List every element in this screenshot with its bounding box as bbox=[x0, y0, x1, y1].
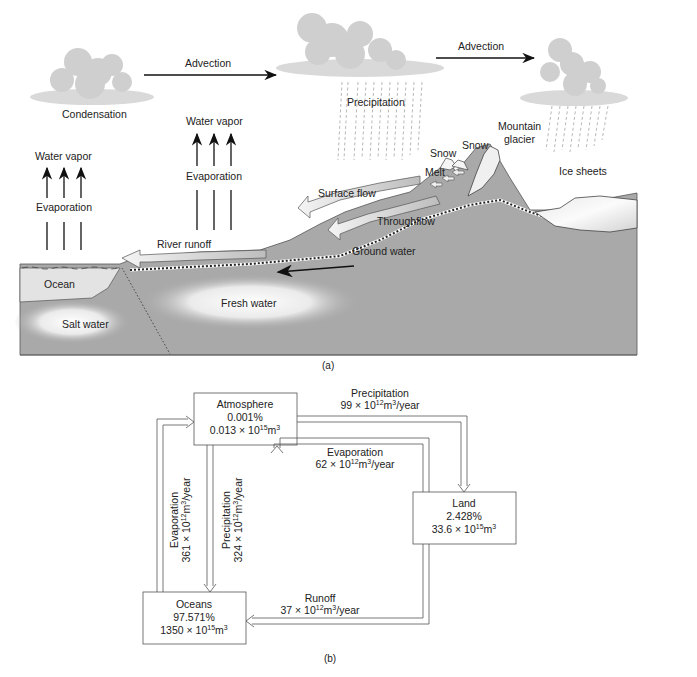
label-water-vapor-mid: Water vapor bbox=[186, 115, 243, 127]
precip-ocean-value: 324 × 1012m3/year bbox=[232, 477, 244, 562]
runoff-value: 37 × 1012m3/year bbox=[280, 604, 360, 616]
evap-ocean-name: Evaporation bbox=[168, 492, 180, 548]
label-ground-water: Ground water bbox=[352, 245, 416, 257]
runoff-name: Runoff bbox=[305, 592, 336, 604]
atmosphere-name: Atmosphere bbox=[217, 398, 274, 410]
precip-land-name: Precipitation bbox=[351, 387, 409, 399]
oceans-name: Oceans bbox=[176, 598, 212, 610]
evap-land-value: 62 × 1012m3/year bbox=[315, 458, 395, 470]
caption-b: (b) bbox=[324, 653, 336, 664]
label-ice-sheets: Ice sheets bbox=[559, 165, 607, 177]
label-precipitation: Precipitation bbox=[347, 96, 405, 108]
cloud-condensation-icon bbox=[30, 48, 154, 105]
oceans-percent: 97.571% bbox=[173, 611, 214, 623]
label-melt: Melt bbox=[425, 166, 445, 178]
evap-land-name: Evaporation bbox=[327, 446, 383, 458]
evaporation-arrows-middle bbox=[197, 134, 231, 230]
oceans-volume: 1350 × 1015m3 bbox=[160, 624, 228, 636]
label-river-runoff: River runoff bbox=[157, 238, 211, 250]
label-glacier: glacier bbox=[504, 133, 535, 145]
label-snow-2: Snow bbox=[462, 139, 489, 151]
label-evaporation-left: Evaporation bbox=[36, 201, 92, 213]
label-salt-water: Salt water bbox=[62, 318, 109, 330]
land-volume: 33.6 × 1015m3 bbox=[432, 523, 497, 535]
land-name: Land bbox=[452, 497, 476, 509]
land-percent: 2.428% bbox=[446, 510, 482, 522]
evap-ocean-value: 361 × 1012m3/year bbox=[180, 477, 192, 562]
label-condensation: Condensation bbox=[62, 108, 127, 120]
atmosphere-volume: 0.013 × 1015m3 bbox=[210, 424, 280, 436]
precip-ocean-name: Precipitation bbox=[220, 491, 232, 549]
rain-precipitation-icon bbox=[338, 82, 422, 160]
precip-land-value: 99 × 1012m3/year bbox=[340, 399, 420, 411]
cloud-precipitation-icon bbox=[276, 13, 444, 77]
label-throughflow: Throughflow bbox=[377, 215, 435, 227]
label-mountain: Mountain bbox=[498, 120, 541, 132]
atmosphere-percent: 0.001% bbox=[227, 411, 263, 423]
label-ocean: Ocean bbox=[44, 278, 75, 290]
panel-a-hydrologic-cycle: Condensation Advection Advection Precipi… bbox=[14, 13, 637, 371]
label-advection-1: Advection bbox=[185, 57, 231, 69]
label-snow-1: Snow bbox=[430, 147, 457, 159]
label-fresh-water: Fresh water bbox=[221, 297, 277, 309]
label-water-vapor-left: Water vapor bbox=[35, 150, 92, 162]
label-evaporation-mid: Evaporation bbox=[186, 170, 242, 182]
label-surface-flow: Surface flow bbox=[318, 187, 376, 199]
water-cycle-figure: Condensation Advection Advection Precipi… bbox=[0, 0, 697, 677]
rain-mountain-icon bbox=[546, 106, 608, 152]
caption-a: (a) bbox=[322, 360, 334, 371]
cloud-mountain-icon bbox=[520, 38, 628, 106]
panel-b-text: Atmosphere 0.001% 0.013 × 1015m3 Land 2.… bbox=[160, 387, 496, 664]
label-advection-2: Advection bbox=[458, 40, 504, 52]
